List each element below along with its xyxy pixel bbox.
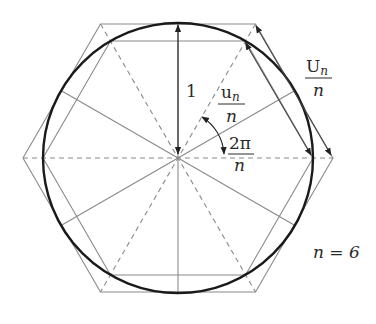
angle-arc	[202, 117, 224, 154]
polygon-circle-diagram: 1 un n Un n 2π n n = 6	[0, 0, 376, 324]
svg-text:n: n	[234, 155, 245, 175]
outer-side-label: Un n	[305, 56, 332, 100]
svg-text:Un: Un	[306, 56, 328, 78]
inner-side-label: un n	[218, 82, 245, 126]
angle-label: 2π n	[228, 133, 254, 175]
svg-text:n: n	[226, 106, 237, 126]
radius-label: 1	[186, 81, 197, 101]
svg-text:n: n	[313, 80, 324, 100]
n-value-label: n = 6	[313, 242, 360, 262]
svg-text:un: un	[221, 82, 240, 104]
svg-text:2π: 2π	[229, 133, 251, 153]
inner-side-arrow	[246, 43, 312, 155]
